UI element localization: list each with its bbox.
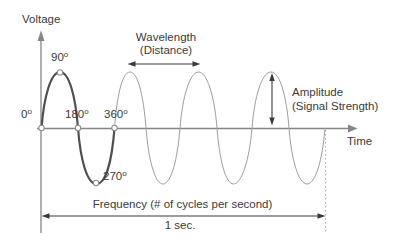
amplitude-label: Amplitude (Signal Strength)	[292, 86, 378, 113]
wavelength-arrowhead-right-icon	[193, 61, 201, 66]
degree-label-360-sup: o	[123, 107, 127, 116]
degree-label-180-value: 180	[65, 108, 84, 120]
one-second-label: 1 sec.	[35, 219, 325, 232]
wavelength-arrowhead-left-icon	[128, 61, 136, 66]
wavelength-arrow	[128, 61, 201, 66]
frequency-arrowhead-right-icon	[318, 213, 326, 218]
degree-label-90-sup: o	[64, 50, 68, 59]
degree-label-0: 0o	[21, 108, 32, 120]
degree-marker-dots	[39, 70, 117, 186]
dot-0deg	[39, 125, 44, 130]
wavelength-label: Wavelength (Distance)	[118, 31, 214, 56]
degree-label-270: 270o	[103, 170, 127, 182]
x-axis-arrowhead-icon	[348, 125, 358, 133]
sine-wave-diagram: Voltage Time Wavelength (Distance) Ampli…	[0, 0, 399, 252]
degree-label-180: 180o	[65, 108, 89, 120]
amplitude-arrowhead-top-icon	[269, 73, 274, 81]
degree-label-180-sup: o	[84, 107, 88, 116]
degree-label-360-value: 360	[104, 108, 123, 120]
degree-label-360: 360o	[104, 108, 128, 120]
frequency-arrow	[42, 213, 326, 218]
y-axis-arrowhead-icon	[38, 31, 45, 42]
frequency-arrowhead-left-icon	[42, 213, 50, 218]
degree-label-90-value: 90	[51, 51, 64, 63]
degree-label-0-sup: o	[27, 107, 31, 116]
wavelength-label-line1: Wavelength	[118, 31, 214, 44]
amplitude-label-line1: Amplitude	[292, 86, 378, 100]
amplitude-arrow	[269, 73, 274, 126]
dot-180deg	[75, 125, 80, 130]
x-axis-label: Time	[347, 135, 372, 148]
x-axis	[37, 125, 358, 133]
amplitude-arrowhead-bottom-icon	[269, 118, 274, 126]
frequency-label: Frequency (# of cycles per second)	[41, 198, 324, 211]
wavelength-label-line2: (Distance)	[118, 44, 214, 57]
degree-label-90: 90o	[51, 51, 68, 63]
y-axis-label: Voltage	[22, 13, 60, 26]
dot-270deg	[93, 180, 98, 185]
degree-label-270-sup: o	[122, 169, 126, 178]
degree-label-270-value: 270	[103, 170, 122, 182]
dot-90deg	[57, 70, 62, 75]
amplitude-label-line2: (Signal Strength)	[292, 100, 378, 114]
dot-360deg	[112, 125, 117, 130]
